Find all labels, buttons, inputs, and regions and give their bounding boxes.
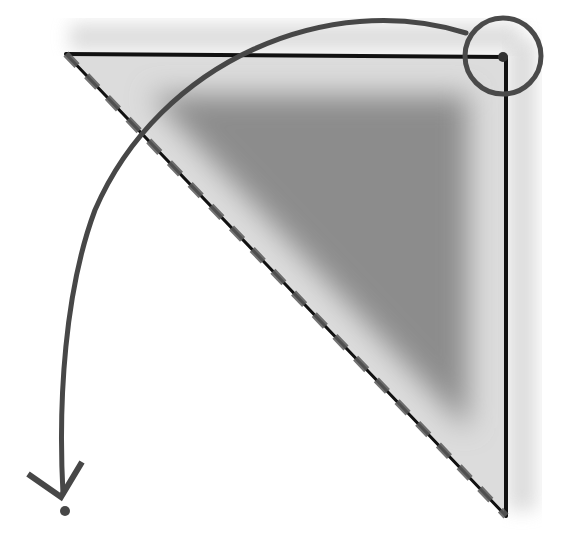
vertex-dot bbox=[498, 52, 508, 62]
arrowhead-icon bbox=[28, 462, 82, 497]
triangle-fold-diagram bbox=[0, 0, 571, 549]
diagram-canvas bbox=[0, 0, 571, 549]
target-point-dot bbox=[60, 506, 70, 516]
